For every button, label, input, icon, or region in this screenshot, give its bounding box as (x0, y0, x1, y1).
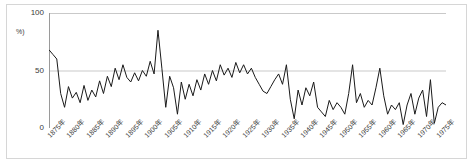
y-axis-label: %) (16, 28, 25, 36)
line-chart-svg (49, 13, 446, 128)
y-tick-label: 50 (14, 67, 44, 75)
y-tick-label: 0 (14, 124, 44, 132)
y-tick-label: 100 (14, 9, 44, 17)
chart-figure: %) 050100 1875年1880年1885年1890年1895年1900年… (0, 0, 474, 165)
plot-area (49, 13, 446, 128)
data-series-line (49, 30, 446, 124)
